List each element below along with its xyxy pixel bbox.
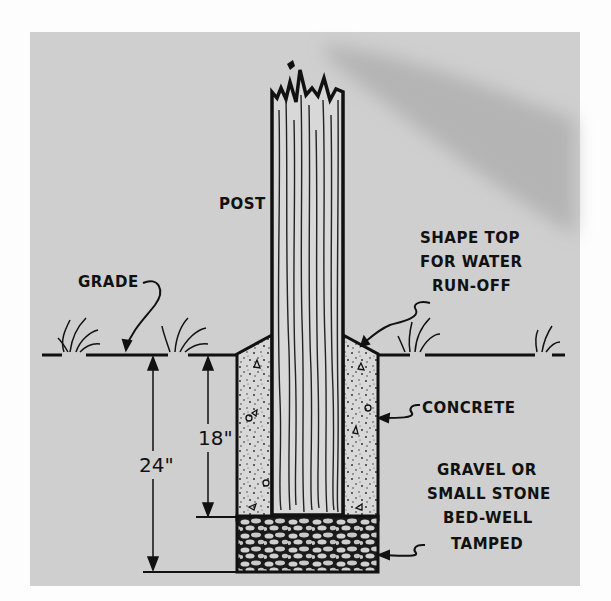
shape-top-label-3: RUN-OFF [432,276,511,296]
shape-top-label-2: FOR WATER [420,252,523,272]
dimension-24-label: 24" [139,451,174,479]
runoff-leader [364,302,430,343]
gravel-label-1: GRAVEL OR [437,460,537,480]
gravel-bed [237,516,378,572]
post-label: POST [219,194,266,214]
grade-label: GRADE [78,272,139,292]
gravel-label-3: BED-WELL [443,508,533,528]
post [272,60,343,515]
dimension-18-label: 18" [198,424,233,452]
gravel-label-2: SMALL STONE [427,484,551,504]
shape-top-label-1: SHAPE TOP [420,228,520,248]
tamped-label: TAMPED [451,534,523,554]
post-shadow [322,45,575,235]
concrete-label: CONCRETE [422,398,516,418]
